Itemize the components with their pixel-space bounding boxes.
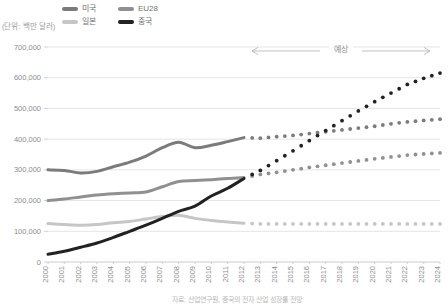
forecast-marker-일본 [397,222,401,226]
forecast-marker-중국 [283,154,287,158]
forecast-marker-일본 [381,222,385,226]
forecast-marker-EU28 [405,153,409,157]
forecast-marker-EU28 [332,162,336,166]
forecast-marker-일본 [438,222,442,226]
forecast-marker-일본 [316,222,320,226]
series-line-중국 [48,178,244,254]
y-tick-label: 500,000 [14,104,41,113]
forecast-marker-EU28 [430,152,434,156]
forecast-marker-EU28 [365,158,369,162]
y-axis-labels: 0100,000200,000300,000400,000500,000600,… [14,43,41,267]
forecast-marker-일본 [373,222,377,226]
forecast-marker-EU28 [275,170,279,174]
forecast-marker-중국 [348,114,352,118]
x-tick-label: 2014 [270,266,279,283]
forecast-marker-중국 [373,100,377,104]
forecast-marker-중국 [414,80,418,84]
forecast-marker-EU28 [283,169,287,173]
forecast-marker-미국 [340,128,344,132]
y-tick-label: 700,000 [14,43,41,52]
source-caption: 자료: 산업연구원, 중국의 전자 산업 성장률 전망 [172,294,302,304]
forecast-marker-일본 [307,222,311,226]
forecast-marker-일본 [258,222,262,226]
y-tick-label: 200,000 [14,196,41,205]
forecast-marker-중국 [397,87,401,91]
forecast-marker-일본 [422,222,426,226]
forecast-marker-미국 [356,126,360,130]
forecast-marker-중국 [365,104,369,108]
forecast-marker-일본 [405,222,409,226]
forecast-marker-중국 [324,129,328,133]
forecast-marker-일본 [324,222,328,226]
y-tick-label: 400,000 [14,135,41,144]
forecast-marker-중국 [340,119,344,123]
forecast-marker-미국 [373,124,377,128]
x-tick-label: 2000 [41,266,50,283]
forecast-marker-중국 [381,95,385,99]
series-lines [48,71,442,254]
forecast-marker-EU28 [397,154,401,158]
forecast-marker-EU28 [414,153,418,157]
forecast-marker-일본 [299,222,303,226]
forecast-marker-일본 [356,222,360,226]
forecast-marker-미국 [422,119,426,123]
forecast-marker-일본 [250,222,254,226]
x-tick-label: 2011 [221,266,230,282]
forecast-marker-중국 [438,71,442,75]
y-tick-label: 300,000 [14,165,41,174]
forecast-marker-EU28 [299,167,303,171]
forecast-marker-EU28 [373,157,377,161]
forecast-marker-미국 [397,121,401,125]
forecast-marker-미국 [283,134,287,138]
forecast-marker-중국 [316,134,320,138]
x-tick-label: 2008 [172,266,181,283]
forecast-marker-중국 [405,83,409,87]
forecast-marker-EU28 [422,152,426,156]
x-tick-label: 2019 [351,266,360,283]
forecast-marker-일본 [365,222,369,226]
forecast-annotation: 예상 [248,44,434,60]
x-tick-label: 2013 [253,266,262,283]
forecast-marker-EU28 [258,173,262,177]
gridlines [44,47,440,262]
x-tick-label: 2021 [384,266,393,283]
forecast-marker-미국 [291,134,295,138]
forecast-marker-EU28 [291,168,295,172]
forecast-marker-중국 [267,164,271,168]
x-tick-label: 2015 [286,266,295,283]
x-tick-label: 2023 [417,266,426,283]
x-tick-label: 2017 [319,266,328,283]
forecast-marker-일본 [267,222,271,226]
forecast-marker-중국 [307,139,311,143]
forecast-label: 예상 [329,44,353,56]
forecast-marker-중국 [275,159,279,163]
forecast-marker-중국 [430,74,434,78]
forecast-marker-미국 [250,136,254,140]
forecast-marker-중국 [332,124,336,128]
forecast-marker-미국 [307,132,311,136]
forecast-marker-미국 [414,119,418,123]
forecast-marker-미국 [299,133,303,137]
x-tick-label: 2022 [400,266,409,283]
forecast-marker-EU28 [381,156,385,160]
forecast-marker-미국 [258,136,262,140]
x-axis-labels: 2000200120022003200420052006200720082009… [41,262,442,283]
forecast-marker-미국 [389,122,393,126]
x-tick-label: 2012 [237,266,246,283]
forecast-marker-미국 [348,127,352,131]
forecast-marker-EU28 [316,164,320,168]
x-tick-label: 2018 [335,266,344,283]
forecast-marker-EU28 [324,163,328,167]
x-tick-label: 2010 [204,266,213,283]
forecast-marker-EU28 [340,161,344,165]
x-tick-label: 2003 [90,266,99,283]
series-line-EU28 [48,178,244,201]
forecast-marker-미국 [405,120,409,124]
forecast-marker-중국 [422,76,426,80]
forecast-marker-일본 [291,222,295,226]
forecast-marker-미국 [430,118,434,122]
forecast-marker-중국 [291,149,295,153]
forecast-marker-일본 [275,222,279,226]
forecast-marker-중국 [356,109,360,113]
